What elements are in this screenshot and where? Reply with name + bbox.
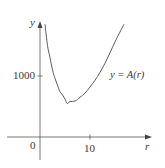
curve-A-of-r — [45, 24, 124, 103]
x-axis-label: r — [145, 141, 149, 152]
chart-plot — [0, 0, 165, 168]
x-axis-arrow-icon — [145, 135, 152, 140]
origin-label: 0 — [30, 140, 36, 151]
y-axis-label: y — [30, 17, 35, 28]
y-axis-arrow-icon — [38, 21, 43, 28]
x-tick-label-10: 10 — [84, 143, 95, 154]
y-tick-label-1000: 1000 — [13, 70, 35, 81]
curve-label: y = A(r) — [110, 70, 144, 81]
